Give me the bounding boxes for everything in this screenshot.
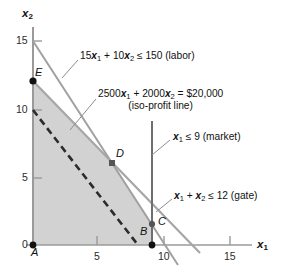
vertex-marker-C	[149, 221, 155, 227]
vertex-label-D: D	[116, 147, 124, 160]
x-tick-label-10: 10	[158, 250, 170, 262]
labor-label-leader	[62, 60, 78, 78]
vertex-marker-D	[109, 160, 115, 166]
linear-programming-figure: x2 x1 15 10 5 0 5 10 15 15x1 + 10x2 ≤ 15…	[0, 0, 284, 274]
y-tick-label-10: 10	[16, 103, 28, 115]
x-tick-label-5: 5	[94, 250, 100, 262]
y-tick-label-15: 15	[16, 34, 28, 46]
isoprofit-caption: (iso-profit line)	[98, 100, 223, 112]
labor-constraint-label: 15x1 + 10x2 ≤ 150 (labor)	[80, 50, 195, 62]
x-axis-title: x1	[257, 238, 268, 251]
isoprofit-constraint-label: 2500x1 + 2000x2 = $20,000 (iso-profit li…	[98, 88, 223, 111]
market-label-leader	[152, 140, 170, 155]
y-tick-label-0: 0	[22, 238, 28, 250]
vertex-marker-B	[149, 242, 156, 249]
vertex-label-B: B	[140, 225, 147, 238]
vertex-label-E: E	[35, 66, 42, 79]
market-constraint-label: x1 ≤ 9 (market)	[173, 131, 241, 143]
gate-constraint-label: x1 + x2 ≤ 12 (gate)	[174, 190, 257, 202]
vertex-label-A: A	[31, 246, 38, 259]
x-tick-label-15: 15	[224, 250, 236, 262]
vertex-label-C: C	[158, 215, 166, 228]
y-axis-title: x2	[22, 7, 33, 20]
gate-label-leader	[156, 199, 172, 212]
y-tick-label-5: 5	[22, 171, 28, 183]
